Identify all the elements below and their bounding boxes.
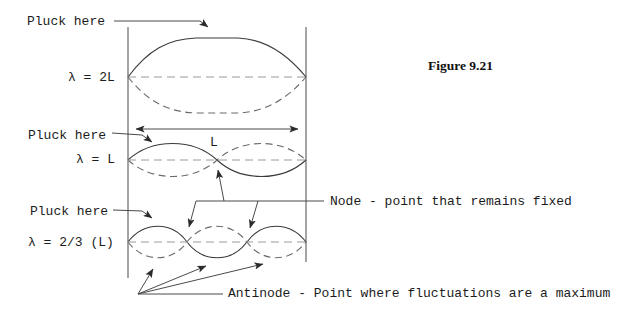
figure-page: Pluck here λ = 2L Pluck here λ = L L Plu… — [0, 0, 620, 312]
pluck-leaders — [112, 21, 208, 218]
wavelength-label-third: λ = 2/3 (L) — [28, 235, 114, 250]
pluck-here-label-second: Pluck here — [28, 128, 106, 143]
string-boundaries — [128, 27, 306, 278]
node-arrow-third-harmonic-right — [250, 201, 258, 228]
fundamental-dashed-curve — [128, 77, 306, 113]
node-arrow-second-harmonic — [218, 170, 224, 201]
wavelength-label-fundamental: λ = 2L — [68, 70, 115, 85]
string-length-label: L — [210, 135, 218, 150]
pluck-leader-arrow-third — [113, 210, 152, 218]
figure-caption: Figure 9.21 — [428, 58, 493, 73]
wavelength-label-second: λ = L — [76, 152, 115, 167]
harmonic-third — [128, 226, 306, 258]
node-definition-label: Node - point that remains fixed — [330, 194, 572, 209]
pluck-here-label-third: Pluck here — [30, 204, 108, 219]
node-arrow-third-harmonic-left — [189, 201, 196, 227]
node-annotation-pointers — [189, 170, 324, 228]
fundamental-solid-curve — [128, 38, 306, 77]
pluck-here-label-fundamental: Pluck here — [27, 14, 105, 29]
antinode-arrow-left — [138, 269, 153, 294]
pluck-leader-arrow-fundamental — [114, 21, 208, 27]
pluck-leader-arrow-second — [112, 133, 152, 142]
antinode-definition-label: Antinode - Point where fluctuations are … — [228, 286, 610, 301]
standing-waves-diagram: Pluck here λ = 2L Pluck here λ = L L Plu… — [0, 0, 620, 312]
harmonic-fundamental — [128, 38, 306, 113]
